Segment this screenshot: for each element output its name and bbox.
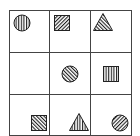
grid-divider (9, 94, 132, 95)
square-backward-diagonal-icon (31, 115, 47, 131)
triangle-backward-diagonal-icon (93, 13, 113, 31)
circle-vertical-lines-icon (13, 14, 31, 32)
triangle-vertical-lines-icon (69, 113, 89, 131)
grid-divider (9, 52, 132, 53)
square-vertical-lines-icon (103, 66, 119, 82)
circle-forward-diagonal-icon (111, 114, 129, 132)
grid-divider (90, 10, 91, 136)
grid-divider (49, 10, 50, 136)
square-forward-diagonal-icon (54, 15, 70, 31)
circle-backward-diagonal-icon (61, 65, 79, 83)
